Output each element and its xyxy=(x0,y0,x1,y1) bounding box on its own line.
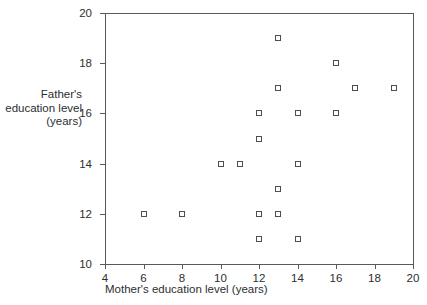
x-tick-label-16: 16 xyxy=(330,272,343,284)
plot-area: 101214161820 468101214161820 xyxy=(105,13,413,264)
data-point xyxy=(218,161,224,167)
data-point xyxy=(295,161,301,167)
y-tick-16: 16 xyxy=(100,113,105,114)
data-point xyxy=(256,236,262,242)
data-point xyxy=(333,110,339,116)
y-tick-12: 12 xyxy=(100,214,105,215)
x-tick-label-6: 6 xyxy=(140,272,146,284)
x-tick-18 xyxy=(375,264,376,269)
data-point xyxy=(256,136,262,142)
x-axis-title: Mother's education level (years) xyxy=(105,283,268,295)
data-point xyxy=(333,60,339,66)
data-point xyxy=(295,236,301,242)
data-point xyxy=(256,110,262,116)
scatter-plot-figure: Father's education level (years) Mother'… xyxy=(0,0,427,305)
x-tick-16 xyxy=(336,264,337,269)
y-axis-title-line-2: education level xyxy=(0,102,82,116)
data-point xyxy=(275,85,281,91)
x-tick-label-20: 20 xyxy=(407,272,420,284)
x-tick-20 xyxy=(413,264,414,269)
y-tick-14: 14 xyxy=(100,164,105,165)
x-tick-6 xyxy=(144,264,145,269)
y-axis-title: Father's education level (years) xyxy=(0,88,82,129)
y-tick-label-16: 16 xyxy=(79,107,92,119)
data-point xyxy=(275,35,281,41)
data-point xyxy=(275,186,281,192)
x-tick-8 xyxy=(182,264,183,269)
y-tick-label-20: 20 xyxy=(79,7,92,19)
x-tick-label-14: 14 xyxy=(291,272,304,284)
x-tick-12 xyxy=(259,264,260,269)
data-point xyxy=(352,85,358,91)
x-tick-label-4: 4 xyxy=(102,272,108,284)
top-frame-line xyxy=(105,13,414,14)
x-tick-10 xyxy=(221,264,222,269)
data-point xyxy=(391,85,397,91)
y-tick-18: 18 xyxy=(100,63,105,64)
y-axis-title-line-1: Father's xyxy=(0,88,82,102)
y-tick-label-18: 18 xyxy=(79,57,92,69)
data-point xyxy=(275,211,281,217)
data-point xyxy=(179,211,185,217)
data-point xyxy=(237,161,243,167)
data-point xyxy=(256,211,262,217)
x-tick-label-18: 18 xyxy=(368,272,381,284)
y-tick-label-10: 10 xyxy=(79,258,92,270)
y-axis-title-line-3: (years) xyxy=(0,115,82,129)
x-tick-label-12: 12 xyxy=(253,272,266,284)
x-tick-label-8: 8 xyxy=(179,272,185,284)
right-frame-line xyxy=(413,13,414,265)
y-tick-label-14: 14 xyxy=(79,158,92,170)
data-point xyxy=(141,211,147,217)
y-axis-line xyxy=(105,13,106,265)
y-tick-20: 20 xyxy=(100,13,105,14)
x-tick-14 xyxy=(298,264,299,269)
x-tick-label-10: 10 xyxy=(214,272,227,284)
data-point xyxy=(295,110,301,116)
y-tick-label-12: 12 xyxy=(79,208,92,220)
x-tick-4 xyxy=(105,264,106,269)
